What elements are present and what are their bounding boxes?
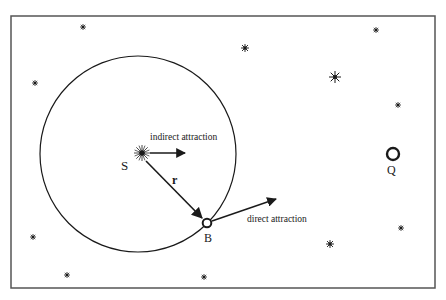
direct-attraction-label: direct attraction bbox=[247, 214, 307, 224]
star-icon bbox=[326, 240, 334, 248]
sun-icon bbox=[134, 145, 150, 161]
diagram-canvas: S B Q r indirect attraction direct attra… bbox=[0, 0, 446, 300]
star-icon bbox=[373, 27, 379, 33]
star-icon bbox=[64, 272, 70, 278]
star-icon bbox=[329, 71, 341, 83]
radius-vector-label: r bbox=[172, 173, 178, 187]
body-b-label: B bbox=[204, 231, 212, 245]
star-icon bbox=[201, 274, 207, 280]
star-icon bbox=[398, 225, 404, 231]
star-icon bbox=[30, 234, 36, 240]
star-icon bbox=[395, 102, 401, 108]
diagram-frame bbox=[11, 16, 435, 288]
indirect-attraction-label: indirect attraction bbox=[150, 132, 218, 142]
star-icon bbox=[32, 80, 38, 86]
star-icon bbox=[241, 44, 249, 52]
body-b-icon bbox=[203, 219, 212, 228]
background-stars bbox=[30, 24, 404, 280]
sun-label: S bbox=[121, 158, 128, 173]
radius-vector-arrow bbox=[146, 161, 202, 218]
body-q-icon bbox=[387, 148, 399, 160]
body-q-label: Q bbox=[387, 163, 396, 177]
star-icon bbox=[80, 24, 86, 30]
